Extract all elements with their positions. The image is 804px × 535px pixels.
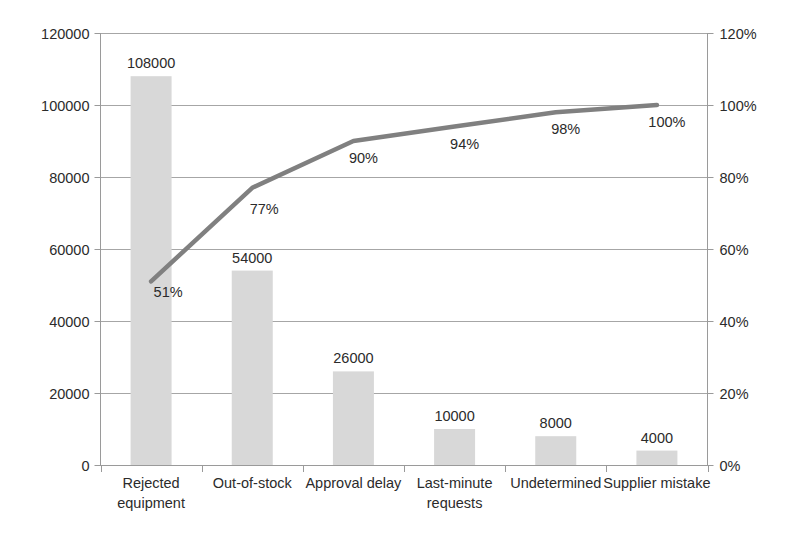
right-axis-tick-label: 20% <box>720 386 749 402</box>
line-value-label: 94% <box>450 136 479 152</box>
left-axis-tick-label: 60000 <box>49 242 89 258</box>
category-label-line: Supplier mistake <box>603 475 710 491</box>
left-axis-tick-label: 100000 <box>41 98 89 114</box>
category-label-line: Approval delay <box>305 475 402 491</box>
category-label: Supplier mistake <box>603 475 710 491</box>
bar <box>636 451 677 465</box>
pareto-chart: 020000400006000080000100000120000 0%20%4… <box>0 0 804 535</box>
left-axis-tick-label: 40000 <box>49 314 89 330</box>
right-axis-tick-label: 0% <box>720 458 741 474</box>
right-axis-tick-label: 100% <box>720 98 757 114</box>
chart-canvas: 020000400006000080000100000120000 0%20%4… <box>0 0 804 535</box>
bar-value-label: 26000 <box>333 350 373 366</box>
category-label-line: Out-of-stock <box>213 475 293 491</box>
bar <box>232 271 273 465</box>
bar <box>434 429 475 465</box>
right-axis-tick-label: 120% <box>720 26 757 42</box>
category-label-line: requests <box>427 495 483 511</box>
left-axis-tick-label: 80000 <box>49 170 89 186</box>
bar-value-label: 108000 <box>127 55 175 71</box>
bar <box>333 371 374 465</box>
category-label-line: Last-minute <box>417 475 493 491</box>
bar <box>535 436 576 465</box>
right-axis-tick-label: 80% <box>720 170 749 186</box>
chart-background <box>0 0 804 535</box>
line-value-label: 51% <box>154 284 183 300</box>
bar-value-label: 4000 <box>641 430 673 446</box>
category-label-line: Rejected <box>122 475 179 491</box>
category-label: Out-of-stock <box>213 475 293 491</box>
line-value-label: 77% <box>250 201 279 217</box>
left-axis-tick-label: 120000 <box>41 26 89 42</box>
category-label-line: Undetermined <box>510 475 601 491</box>
bar-value-label: 8000 <box>540 415 572 431</box>
line-value-label: 100% <box>648 114 685 130</box>
category-label-line: equipment <box>117 495 185 511</box>
left-axis-tick-label: 20000 <box>49 386 89 402</box>
right-axis-tick-label: 40% <box>720 314 749 330</box>
left-axis-tick-label: 0 <box>81 458 89 474</box>
category-label: Undetermined <box>510 475 601 491</box>
category-label: Approval delay <box>305 475 402 491</box>
line-value-label: 90% <box>349 150 378 166</box>
bar-value-label: 10000 <box>434 408 474 424</box>
line-value-label: 98% <box>551 121 580 137</box>
bar-value-label: 54000 <box>232 250 272 266</box>
right-axis-tick-label: 60% <box>720 242 749 258</box>
